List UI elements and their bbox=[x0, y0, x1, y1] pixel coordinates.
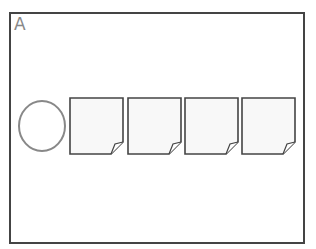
page-icon bbox=[242, 98, 295, 154]
circle-shape bbox=[19, 101, 65, 151]
diagram-shapes bbox=[0, 0, 316, 249]
page-icon bbox=[128, 98, 181, 154]
page-icon bbox=[185, 98, 238, 154]
page-icon bbox=[70, 98, 123, 154]
